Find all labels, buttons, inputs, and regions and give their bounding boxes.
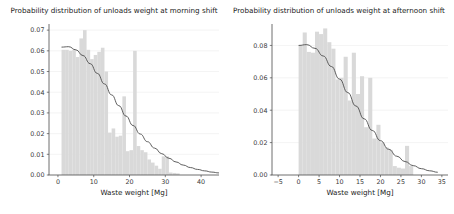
y-tick-label: 0.01 (30, 151, 44, 159)
morning-shift-chart: Probability distribution of unloads weig… (0, 0, 227, 214)
histogram-bar (115, 137, 119, 175)
histogram-bar (376, 125, 380, 175)
histogram-bar (335, 79, 339, 175)
x-tick-label: 0 (56, 178, 60, 186)
histogram-bar (90, 59, 94, 175)
histogram-bars (299, 28, 414, 175)
x-tick-label: 30 (161, 178, 169, 186)
x-tick-label: 40 (197, 178, 205, 186)
chart-title: Probability distribution of unloads weig… (11, 6, 218, 15)
histogram-bar (151, 163, 155, 175)
histogram-bar (62, 50, 66, 175)
afternoon-shift-chart: Probability distribution of unloads weig… (227, 0, 454, 214)
histogram-bar (97, 52, 101, 175)
x-tick-label: 30 (417, 178, 425, 186)
y-tick-label: 0.06 (30, 47, 44, 55)
histogram-bar (360, 76, 364, 175)
histogram-bar (389, 150, 393, 175)
x-tick-label: 15 (356, 178, 364, 186)
y-tick-label: 0.00 (30, 171, 44, 179)
y-tick-label: 0.04 (30, 89, 44, 97)
histogram-bar (397, 168, 401, 175)
histogram-bar (352, 53, 356, 175)
histogram-bar (140, 150, 144, 175)
histogram-bar (79, 38, 83, 175)
histogram-bar (147, 159, 151, 175)
x-axis-label: Waste weight [Mg] (100, 188, 167, 197)
histogram-bar (344, 57, 348, 175)
histogram-bar (155, 166, 159, 175)
histogram-bar (393, 166, 397, 175)
histogram-bar (380, 143, 384, 175)
histogram-bar (76, 57, 80, 175)
histogram-bar (315, 32, 319, 175)
histogram-bar (372, 139, 376, 175)
histogram-bar (162, 156, 166, 175)
chart-panel-afternoon-shift: Probability distribution of unloads weig… (227, 0, 454, 214)
histogram-bar (299, 45, 303, 175)
chart-title: Probability distribution of unloads weig… (233, 6, 445, 15)
histogram-bar (133, 51, 137, 175)
histogram-bar (137, 146, 141, 175)
histogram-bar (311, 53, 315, 175)
figure-container: Probability distribution of unloads weig… (0, 0, 454, 214)
chart-panel-morning-shift: Probability distribution of unloads weig… (0, 0, 227, 214)
histogram-bar (364, 127, 368, 175)
x-tick-label: 10 (335, 178, 343, 186)
histogram-bar (323, 28, 327, 175)
histogram-bar (126, 151, 130, 175)
histogram-bar (65, 50, 69, 175)
histogram-bar (112, 128, 116, 175)
y-tick-label: 0.08 (253, 42, 267, 50)
histogram-bar (158, 169, 162, 175)
histogram-bar (385, 147, 389, 175)
x-tick-label: −5 (273, 178, 282, 186)
histogram-bar (108, 133, 112, 175)
histogram-bar (69, 51, 73, 175)
histogram-bar (72, 50, 76, 175)
x-tick-label: 5 (317, 178, 321, 186)
histogram-bar (144, 152, 148, 175)
histogram-bar (348, 101, 352, 176)
x-tick-label: 20 (376, 178, 384, 186)
x-axis-label: Waste weight [Mg] (326, 188, 393, 197)
histogram-bar (83, 30, 87, 175)
histogram-bar (307, 52, 311, 175)
x-tick-label: 25 (397, 178, 405, 186)
histogram-bar (130, 150, 134, 175)
histogram-bar (165, 156, 169, 175)
y-tick-label: 0.00 (253, 171, 267, 179)
y-tick-label: 0.07 (30, 26, 44, 34)
x-tick-label: 35 (438, 178, 446, 186)
histogram-bar (122, 96, 126, 175)
y-tick-label: 0.03 (30, 109, 44, 117)
x-tick-label: 0 (297, 178, 301, 186)
x-tick-label: 20 (125, 178, 133, 186)
histogram-bar (303, 32, 307, 175)
y-tick-label: 0.06 (253, 74, 267, 82)
x-tick-label: 10 (90, 178, 98, 186)
y-tick-label: 0.02 (253, 139, 267, 147)
histogram-bar (87, 50, 91, 175)
histogram-bar (101, 48, 105, 175)
y-tick-label: 0.05 (30, 68, 44, 76)
histogram-bar (340, 78, 344, 175)
histogram-bar (401, 169, 405, 175)
y-tick-label: 0.04 (253, 107, 267, 115)
histogram-bar (409, 166, 413, 175)
histogram-bar (119, 136, 123, 175)
histogram-bar (405, 146, 409, 175)
y-tick-label: 0.02 (30, 130, 44, 138)
